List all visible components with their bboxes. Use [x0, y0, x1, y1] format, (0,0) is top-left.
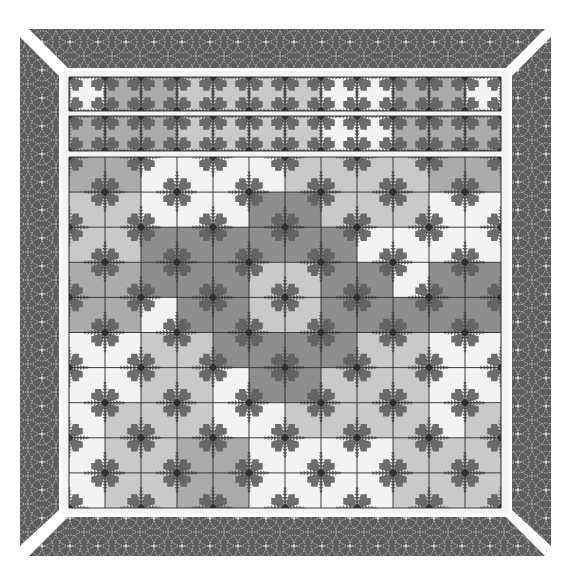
- border-right: [512, 37, 551, 546]
- border-left: [20, 37, 59, 546]
- quilt-image: [0, 0, 571, 569]
- border-top: [29, 29, 545, 68]
- caption: [0, 561, 571, 569]
- border-bottom: [29, 517, 545, 556]
